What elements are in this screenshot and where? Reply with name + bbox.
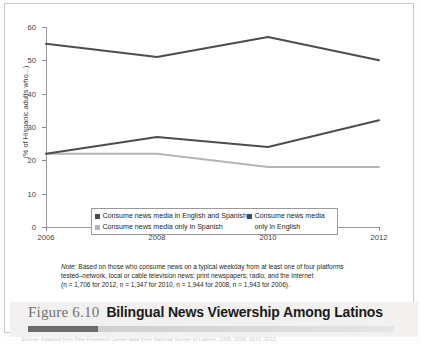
figure-card: (% of Hispanic adults who...) 60 50 40 3… (4, 3, 414, 333)
note-line-1: Based on those who consume news on a typ… (77, 263, 344, 270)
source-line: Source: Adapted from Pew Research Center… (21, 335, 411, 344)
legend-row-2: Consume news media only in Spanish only … (95, 222, 334, 233)
note-label: Note: (61, 263, 77, 270)
legend-label-only-in-english-line2: only in English (247, 222, 300, 232)
legend-item-only-in-spanish[interactable]: Consume news media only in Spanish (95, 222, 247, 232)
caption-gradient-bar (28, 326, 394, 332)
legend-label-only-in-english: Consume news media (255, 211, 325, 221)
chart-legend: Consume news media in English and Spanis… (91, 208, 338, 235)
figure-title: Bilingual News Viewership Among Latinos (106, 304, 383, 320)
series-line-only-in-spanish (46, 154, 379, 167)
series-line-only-in-english (46, 120, 379, 153)
square-marker-icon (95, 214, 100, 219)
note-line-3: (n = 1,706 for 2012, n = 1,347 for 2010,… (61, 281, 290, 288)
legend-item-only-in-english[interactable]: Consume news media (247, 211, 325, 221)
legend-row-1: Consume news media in English and Spanis… (95, 211, 334, 222)
legend-label-only-in-spanish: Consume news media only in Spanish (103, 222, 223, 232)
caption: Figure 6.10 Bilingual News Viewership Am… (28, 304, 383, 321)
legend-item-english-and-spanish[interactable]: Consume news media in English and Spanis… (95, 211, 247, 221)
figure-page: (% of Hispanic adults who...) 60 50 40 3… (0, 0, 421, 345)
square-marker-icon (247, 214, 252, 219)
chart-note: Note: Based on those who consume news on… (61, 262, 401, 289)
figure-number: Figure 6.10 (28, 304, 99, 321)
note-line-2: tested–network, local or cable televisio… (61, 272, 313, 279)
square-marker-icon (95, 225, 100, 230)
series-line-english-and-spanish (46, 37, 379, 60)
legend-label-english-and-spanish: Consume news media in English and Spanis… (103, 211, 247, 221)
